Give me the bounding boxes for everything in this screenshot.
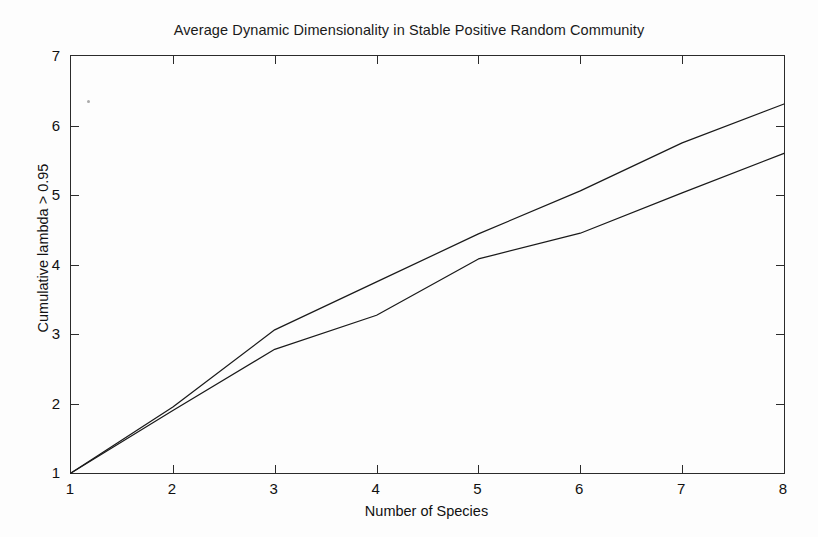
y-tick-right-3 <box>776 334 784 335</box>
x-tick-top-4 <box>377 56 378 64</box>
x-tick-label-2: 2 <box>152 480 192 497</box>
x-tick-6 <box>580 465 581 473</box>
plot-area <box>70 55 785 474</box>
x-tick-top-5 <box>478 56 479 64</box>
x-tick-top-7 <box>682 56 683 64</box>
x-tick-top-2 <box>173 56 174 64</box>
series-line-lower-curve <box>71 153 784 473</box>
y-axis-title: Cumulative lambda > 0.95 <box>35 108 51 388</box>
y-tick-right-5 <box>776 195 784 196</box>
x-tick-3 <box>275 465 276 473</box>
x-tick-top-6 <box>580 56 581 64</box>
y-tick-5 <box>71 195 79 196</box>
chart-figure: Average Dynamic Dimensionality in Stable… <box>0 0 818 537</box>
x-tick-label-7: 7 <box>661 480 701 497</box>
y-tick-4 <box>71 265 79 266</box>
y-tick-right-2 <box>776 404 784 405</box>
x-tick-4 <box>377 465 378 473</box>
y-tick-right-4 <box>776 265 784 266</box>
y-tick-label-2: 2 <box>20 394 60 411</box>
x-tick-label-6: 6 <box>559 480 599 497</box>
x-tick-label-3: 3 <box>254 480 294 497</box>
y-tick-6 <box>71 126 79 127</box>
x-tick-label-8: 8 <box>763 480 803 497</box>
x-tick-top-3 <box>275 56 276 64</box>
x-tick-label-4: 4 <box>356 480 396 497</box>
x-axis-tick-labels: 12345678 <box>70 480 783 502</box>
y-tick-2 <box>71 404 79 405</box>
y-tick-label-1: 1 <box>20 464 60 481</box>
x-tick-label-5: 5 <box>457 480 497 497</box>
x-tick-2 <box>173 465 174 473</box>
chart-title: Average Dynamic Dimensionality in Stable… <box>0 22 818 38</box>
plot-lines <box>71 56 784 473</box>
x-tick-7 <box>682 465 683 473</box>
x-axis-title: Number of Species <box>70 503 783 519</box>
x-tick-label-1: 1 <box>50 480 90 497</box>
x-tick-5 <box>478 465 479 473</box>
y-tick-3 <box>71 334 79 335</box>
y-tick-label-7: 7 <box>20 47 60 64</box>
y-tick-right-6 <box>776 126 784 127</box>
series-line-upper-curve <box>71 104 784 473</box>
